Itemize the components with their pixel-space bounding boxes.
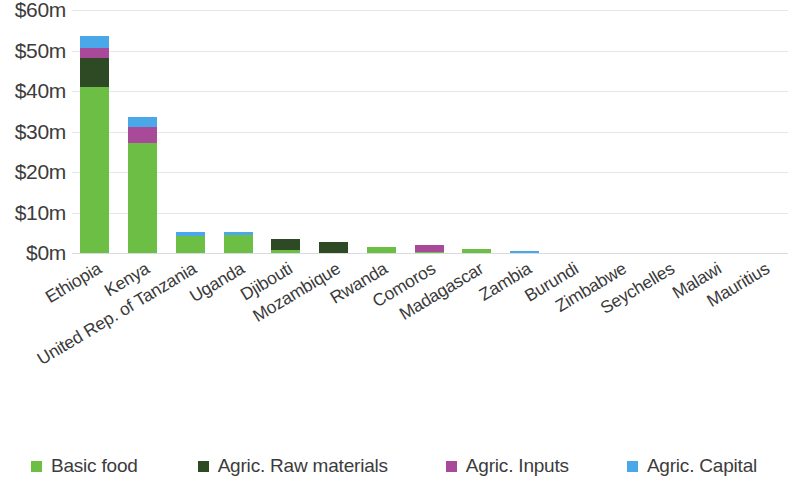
legend-label: Agric. Inputs: [466, 455, 569, 477]
y-axis-tick-label: $30m: [0, 121, 66, 142]
legend-item[interactable]: Basic food: [31, 455, 138, 477]
y-axis-tick-label: $40m: [0, 80, 66, 101]
bar-segment[interactable]: [415, 245, 444, 252]
stacked-bar-chart: $0m$10m$20m$30m$40m$50m$60m EthiopiaKeny…: [0, 0, 788, 480]
plot-area: [72, 10, 788, 253]
legend-item[interactable]: Agric. Capital: [627, 455, 757, 477]
gridline-30: [72, 132, 788, 133]
gridline-20: [72, 172, 788, 173]
bar-segment[interactable]: [80, 58, 109, 87]
bar-segment[interactable]: [128, 117, 157, 127]
legend-label: Agric. Raw materials: [218, 455, 388, 477]
x-axis: EthiopiaKenyaUnited Rep. of TanzaniaUgan…: [72, 253, 788, 413]
y-axis-tick-label: $0m: [0, 242, 66, 263]
gridline-40: [72, 91, 788, 92]
bar-segment[interactable]: [271, 239, 300, 250]
bar-segment[interactable]: [224, 235, 253, 253]
gridline-50: [72, 51, 788, 52]
bar-djibouti[interactable]: [271, 239, 300, 253]
legend-swatch-icon: [446, 461, 457, 472]
y-axis-tick-label: $50m: [0, 40, 66, 61]
legend-label: Agric. Capital: [647, 455, 757, 477]
bar-ethiopia[interactable]: [80, 36, 109, 253]
y-axis-tick-label: $60m: [0, 0, 66, 20]
bar-segment[interactable]: [128, 143, 157, 253]
legend-label: Basic food: [51, 455, 138, 477]
legend-item[interactable]: Agric. Raw materials: [198, 455, 388, 477]
legend-swatch-icon: [198, 461, 209, 472]
y-axis-tick-label: $10m: [0, 202, 66, 223]
bar-uganda[interactable]: [224, 232, 253, 253]
gridline-60: [72, 10, 788, 11]
bar-segment[interactable]: [80, 36, 109, 48]
gridline-10: [72, 213, 788, 214]
bar-segment[interactable]: [319, 242, 348, 253]
legend-item[interactable]: Agric. Inputs: [446, 455, 569, 477]
legend-swatch-icon: [31, 461, 42, 472]
bar-segment[interactable]: [176, 236, 205, 253]
y-axis-tick-label: $20m: [0, 161, 66, 182]
bar-united-rep-of-tanzania[interactable]: [176, 232, 205, 253]
bar-segment[interactable]: [128, 127, 157, 143]
bar-mozambique[interactable]: [319, 242, 348, 253]
bar-kenya[interactable]: [128, 117, 157, 253]
chart-legend: Basic foodAgric. Raw materialsAgric. Inp…: [0, 452, 788, 480]
legend-swatch-icon: [627, 461, 638, 472]
bar-comoros[interactable]: [415, 245, 444, 253]
bar-segment[interactable]: [80, 87, 109, 253]
y-axis: $0m$10m$20m$30m$40m$50m$60m: [0, 10, 66, 253]
bar-segment[interactable]: [80, 48, 109, 57]
